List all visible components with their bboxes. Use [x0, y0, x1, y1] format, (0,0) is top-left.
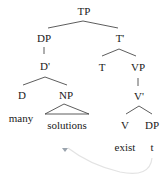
- branch-tp-dp: [48, 21, 83, 28]
- word-exist: exist: [115, 141, 136, 153]
- word-trace: t: [150, 141, 153, 153]
- np-triangle: [45, 104, 89, 114]
- node-vp: VP: [131, 61, 145, 73]
- branch-dbar-d: [23, 77, 45, 85]
- arrowhead-icon: [62, 148, 68, 152]
- branch-dbar-np: [45, 77, 67, 85]
- node-v: V: [121, 119, 129, 131]
- node-dp-object: DP: [145, 119, 159, 131]
- word-many: many: [9, 112, 33, 124]
- branch-tbar-t: [102, 49, 119, 56]
- node-t-bar: T': [116, 32, 125, 44]
- node-t: T: [99, 61, 106, 73]
- node-dp: DP: [37, 32, 51, 44]
- branch-tp-tbar: [83, 21, 118, 28]
- node-v-bar: V': [134, 90, 144, 102]
- node-np: NP: [59, 89, 73, 101]
- branch-vbar-v: [126, 106, 139, 114]
- node-tp: TP: [78, 5, 91, 17]
- movement-arrow: [68, 148, 152, 173]
- node-d: D: [18, 89, 26, 101]
- syntax-tree-diagram: TP DP T' D' T VP D NP V' many solutions …: [0, 0, 168, 179]
- word-solutions: solutions: [47, 119, 87, 131]
- node-d-bar: D': [40, 60, 50, 72]
- branch-vbar-dp: [139, 106, 152, 114]
- branch-tbar-vp: [119, 49, 136, 56]
